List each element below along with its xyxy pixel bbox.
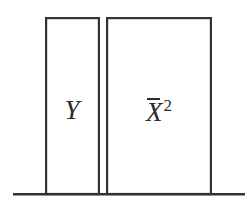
bar-comparison-figure: Y X 2 (0, 0, 250, 211)
figure-canvas (0, 0, 250, 211)
bar-label-x-exponent: 2 (164, 96, 173, 115)
bar-label-x-base: X (146, 97, 163, 127)
bar-label-y-text: Y (64, 95, 79, 125)
bar-label-xbar-squared: X 2 (146, 98, 172, 126)
xbar-overbar-group: X (146, 98, 163, 126)
bar-label-y: Y (64, 97, 79, 124)
